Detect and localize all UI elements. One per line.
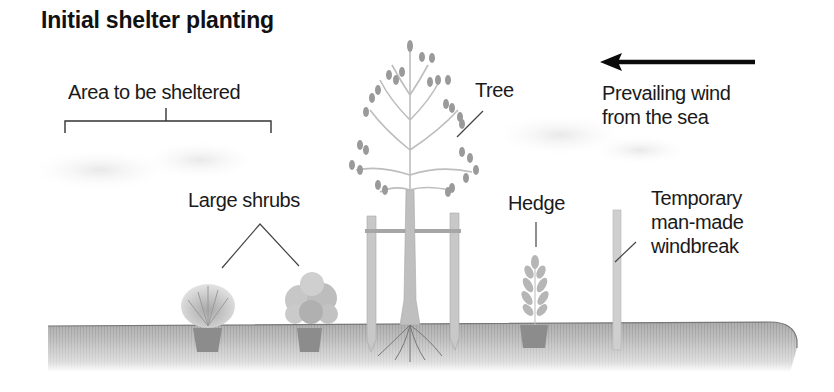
label-temporary-windbreak: Temporary man-made windbreak xyxy=(651,186,743,258)
label-large-shrubs: Large shrubs xyxy=(188,188,300,212)
label-tree: Tree xyxy=(475,78,514,102)
label-wind-line-1: Prevailing wind xyxy=(602,81,731,105)
tree xyxy=(349,40,479,362)
label-windbreak-line-2: man-made xyxy=(651,210,743,234)
label-hedge: Hedge xyxy=(508,191,565,215)
label-prevailing-wind: Prevailing wind from the sea xyxy=(602,81,731,129)
sky-haze xyxy=(25,113,690,192)
diagram-title: Initial shelter planting xyxy=(41,7,274,34)
area-bracket xyxy=(65,108,271,133)
label-area-to-be-sheltered: Area to be sheltered xyxy=(68,80,240,104)
label-windbreak-line-1: Temporary xyxy=(651,186,743,210)
label-windbreak-line-3: windbreak xyxy=(651,234,743,258)
ground xyxy=(48,322,797,372)
label-wind-line-2: from the sea xyxy=(602,105,731,129)
hedge-plant xyxy=(519,255,551,348)
wind-arrow-icon xyxy=(600,53,755,71)
windbreak-post xyxy=(613,210,621,350)
